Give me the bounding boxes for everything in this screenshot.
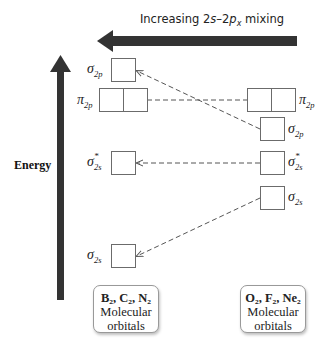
right-sigma2s-star-box: [260, 151, 285, 175]
left-molecules-panel: B₂, C₂, N₂ Molecular orbitals: [93, 285, 159, 333]
left-sigma2s-star-label: σ*2s: [87, 154, 101, 172]
right-sigma2s-box: [260, 186, 285, 210]
right-pi2p-box-2: [271, 88, 296, 112]
left-sigma2p-label: σ2p: [87, 61, 102, 79]
right-sigma2p-box: [260, 117, 285, 141]
left-sigma2s-label: σ2s: [87, 247, 101, 265]
right-pi2p-box-1: [247, 88, 272, 112]
connector-sigma2s: [137, 198, 260, 256]
left-sigma2s-star-box: [111, 151, 136, 175]
energy-arrow-icon: [50, 55, 71, 300]
right-sigma2p-label: σ2p: [288, 121, 303, 139]
right-panel-line3: orbitals: [254, 319, 292, 333]
right-molecules-formula: O₂, F₂, Ne₂: [245, 291, 301, 305]
left-panel-line3: orbitals: [107, 319, 145, 333]
left-sigma2p-box: [111, 58, 136, 82]
left-molecules-formula: B₂, C₂, N₂: [101, 291, 151, 305]
left-sigma2s-box: [111, 244, 136, 268]
right-molecules-panel: O₂, F₂, Ne₂ Molecular orbitals: [240, 285, 306, 333]
left-pi2p-box-1: [99, 88, 124, 112]
left-pi2p-box-2: [123, 88, 148, 112]
right-panel-line2: Molecular: [247, 305, 298, 319]
right-sigma2s-star-label: σ*2s: [288, 154, 302, 172]
right-pi2p-label: π2p: [299, 92, 315, 110]
energy-axis-label: Energy: [14, 158, 51, 173]
mixing-arrow-icon: [97, 30, 297, 52]
right-sigma2s-label: σ2s: [288, 189, 302, 207]
left-panel-line2: Molecular: [100, 305, 151, 319]
left-pi2p-label: π2p: [77, 92, 93, 110]
mixing-label: Increasing 2s–2px mixing: [112, 12, 312, 28]
